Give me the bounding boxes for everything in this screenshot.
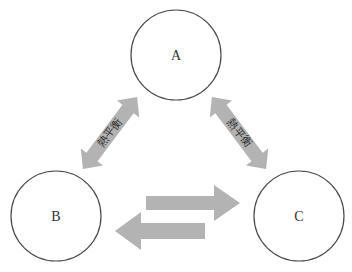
right-arrow-icon bbox=[146, 185, 240, 221]
left-arrow-icon bbox=[115, 212, 205, 250]
edge-b-c bbox=[146, 185, 240, 221]
node-a-label: A bbox=[171, 48, 182, 63]
edge-a-c-label: 熱平衡 bbox=[224, 116, 254, 150]
node-c-label: C bbox=[294, 209, 303, 224]
diagram-canvas: A B C 熱平衡 熱平衡 bbox=[0, 0, 352, 272]
node-b-label: B bbox=[51, 209, 60, 224]
node-c: C bbox=[254, 171, 344, 261]
node-a: A bbox=[131, 10, 221, 100]
edge-c-b bbox=[115, 212, 205, 250]
node-b: B bbox=[11, 171, 101, 261]
edge-a-b-label: 熱平衡 bbox=[95, 116, 125, 150]
edge-a-c: 熱平衡 bbox=[201, 89, 278, 178]
edge-a-b: 熱平衡 bbox=[72, 89, 149, 178]
